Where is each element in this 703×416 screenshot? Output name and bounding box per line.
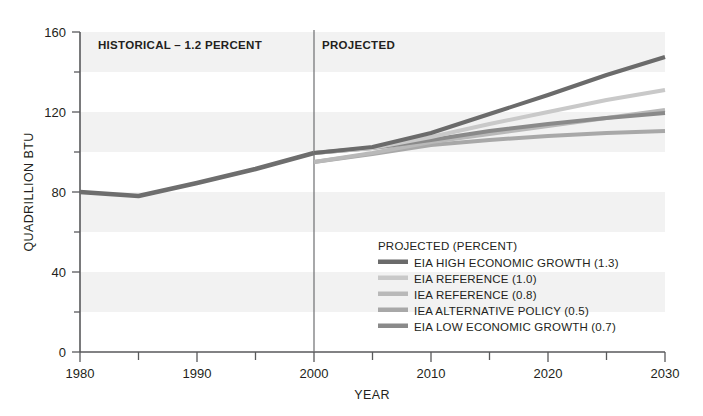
projected-annotation: PROJECTED (322, 39, 395, 51)
x-tick-label-2020: 2020 (534, 366, 563, 381)
legend-swatch-0 (378, 260, 408, 265)
x-tick-label-2030: 2030 (651, 366, 680, 381)
legend-label-3: IEA ALTERNATIVE POLICY (0.5) (414, 305, 589, 317)
y-tick-label-80: 80 (52, 185, 66, 200)
legend-swatch-2 (378, 292, 408, 297)
x-axis-ticks (80, 352, 665, 362)
legend-label-0: EIA HIGH ECONOMIC GROWTH (1.3) (414, 257, 619, 269)
background-bands (80, 32, 665, 312)
y-tick-label-40: 40 (52, 265, 66, 280)
y-tick-label-160: 160 (44, 25, 66, 40)
x-tick-label-1990: 1990 (183, 366, 212, 381)
y-tick-label-0: 0 (59, 345, 66, 360)
legend-label-1: EIA REFERENCE (1.0) (414, 273, 537, 285)
legend-swatch-4 (378, 324, 408, 329)
y-axis-title: QUADRILLION BTU (22, 132, 36, 251)
x-tick-label-2010: 2010 (417, 366, 446, 381)
y-axis-ticks (72, 32, 80, 352)
x-axis-title: YEAR (354, 388, 390, 402)
legend-label-2: IEA REFERENCE (0.8) (414, 289, 537, 301)
legend-label-4: EIA LOW ECONOMIC GROWTH (0.7) (414, 321, 616, 333)
legend-swatch-3 (378, 308, 408, 313)
x-tick-label-2000: 2000 (300, 366, 329, 381)
y-tick-label-120: 120 (44, 105, 66, 120)
historical-annotation: HISTORICAL – 1.2 PERCENT (98, 39, 262, 51)
legend-swatch-1 (378, 276, 408, 281)
chart-canvas: 160 120 80 40 0 1980 1990 2000 2010 2020… (0, 0, 703, 416)
energy-outlook-chart: 160 120 80 40 0 1980 1990 2000 2010 2020… (0, 0, 703, 416)
x-tick-label-1980: 1980 (66, 366, 95, 381)
line-historical (80, 153, 314, 196)
legend-title: PROJECTED (PERCENT) (378, 240, 517, 252)
